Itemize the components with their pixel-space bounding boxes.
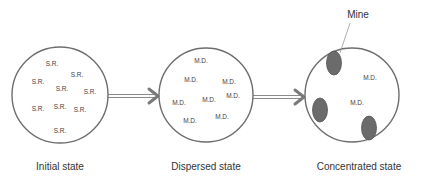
token-label: M.D.: [184, 76, 198, 83]
token-label: M.D.: [215, 113, 229, 120]
state-caption: Dispersed state: [171, 161, 241, 172]
mine-annotation: Mine: [340, 9, 369, 53]
mine-blob: [327, 51, 342, 75]
state-circle: [305, 48, 399, 142]
token-label: M.D.: [172, 99, 186, 106]
token-label: S.R.: [74, 106, 87, 113]
token-label: S.R.: [71, 71, 84, 78]
state-caption: Initial state: [36, 161, 84, 172]
mine-blob: [362, 116, 377, 140]
arrow-head-icon: [295, 90, 304, 104]
token-label: M.D.: [350, 99, 364, 106]
token-label: S.R.: [32, 78, 45, 85]
token-label: S.R.: [32, 105, 45, 112]
token-label: M.D.: [183, 117, 197, 124]
arrow-2: [253, 90, 304, 104]
token-label: S.R.: [84, 88, 97, 95]
token-label: M.D.: [222, 78, 236, 85]
token-label: S.R.: [46, 60, 59, 67]
token-label: M.D.: [194, 57, 208, 64]
token-label: M.D.: [226, 92, 240, 99]
token-label: M.D.: [202, 96, 216, 103]
arrow-1: [108, 89, 158, 103]
state-caption: Concentrated state: [317, 161, 402, 172]
state-concentrated-state: M.D.M.D.Concentrated state: [305, 48, 402, 172]
arrow-head-icon: [149, 89, 158, 103]
token-label: M.D.: [363, 74, 377, 81]
state-dispersed-state: M.D.M.D.M.D.M.D.M.D.M.D.M.D.M.D.Disperse…: [159, 48, 253, 172]
mine-blob: [313, 98, 328, 122]
token-label: S.R.: [54, 127, 67, 134]
state-initial-state: S.R.S.R.S.R.S.R.S.R.S.R.S.R.S.R.S.R.Init…: [12, 47, 108, 172]
token-label: S.R.: [56, 85, 69, 92]
states: S.R.S.R.S.R.S.R.S.R.S.R.S.R.S.R.S.R.Init…: [12, 47, 402, 172]
token-label: S.R.: [54, 103, 67, 110]
mine-label: Mine: [347, 9, 369, 20]
mineralization-diagram: S.R.S.R.S.R.S.R.S.R.S.R.S.R.S.R.S.R.Init…: [0, 0, 421, 185]
